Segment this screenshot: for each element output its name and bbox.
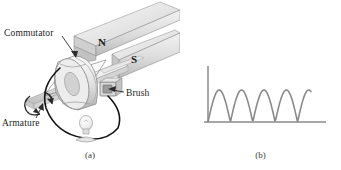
label-brush: Brush <box>126 88 149 98</box>
commutator-ring <box>49 55 97 114</box>
physics-figure-dc-generator: Commutator Armature Brush N S ℰ t (a) (b… <box>0 0 341 170</box>
panel-a-generator-diagram: Commutator Armature Brush N S <box>0 0 180 170</box>
emf-vs-time-chart <box>180 0 341 170</box>
caption-panel-b: (b) <box>180 150 341 160</box>
generator-illustration <box>0 0 180 170</box>
light-bulb <box>76 116 96 143</box>
caption-panel-a: (a) <box>0 150 180 160</box>
emf-waveform-curve <box>208 90 311 122</box>
label-armature: Armature <box>2 118 40 128</box>
magnet-pole-label-north: N <box>98 36 106 48</box>
panel-b-emf-waveform: ℰ t <box>180 0 341 170</box>
magnet-pole-label-south: S <box>131 53 137 65</box>
label-commutator: Commutator <box>4 28 54 38</box>
brush-contact <box>100 78 122 96</box>
